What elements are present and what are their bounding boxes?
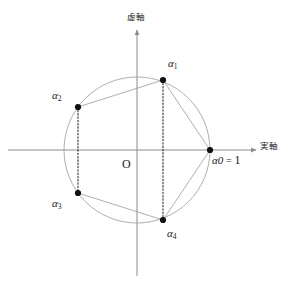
chord-a4-a0 [163, 150, 210, 220]
alpha-subscript: 4 [173, 232, 177, 241]
alpha-subscript: 0 [218, 154, 224, 166]
imaginary-axis-label: 虚軸 [127, 13, 145, 22]
point-a2 [75, 104, 81, 110]
figure-canvas [0, 0, 289, 287]
equals-sign: = [226, 155, 232, 166]
roots-of-unity-figure: 虚軸 実軸 O α0 = 1 α1 α2 α3 α4 [0, 0, 289, 287]
root-label-alpha2: α2 [52, 90, 62, 103]
alpha-subscript: 2 [58, 94, 62, 103]
point-a1 [160, 77, 166, 83]
real-axis-label: 実軸 [260, 142, 278, 151]
point-a0 [207, 147, 213, 153]
root-label-alpha0: α0 = 1 [212, 154, 240, 166]
origin-label: O [122, 158, 131, 170]
root-label-alpha3: α3 [52, 198, 62, 211]
root-label-alpha1: α1 [168, 58, 178, 71]
point-a3 [75, 190, 81, 196]
chord-a0-a1 [163, 80, 210, 150]
root-label-alpha4: α4 [167, 228, 177, 241]
alpha-subscript: 3 [58, 202, 62, 211]
point-a4 [160, 217, 166, 223]
alpha-subscript: 1 [174, 62, 178, 71]
axes-group [8, 30, 256, 276]
value-one: 1 [234, 153, 240, 167]
